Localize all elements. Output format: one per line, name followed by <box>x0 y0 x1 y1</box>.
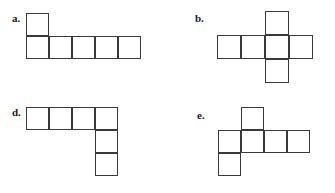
figure-label-e: e. <box>197 110 205 121</box>
net-square <box>218 130 241 153</box>
net-square <box>26 36 49 59</box>
figure-label-d: d. <box>12 107 21 118</box>
net-square <box>265 11 289 35</box>
net-square <box>95 130 118 153</box>
net-square <box>95 107 118 130</box>
net-square <box>289 35 313 59</box>
net-square <box>241 130 264 153</box>
figure-label-b: b. <box>195 13 204 24</box>
net-square <box>95 153 118 176</box>
net-square <box>241 107 264 130</box>
net-square <box>265 59 289 83</box>
net-square <box>217 35 241 59</box>
net-square <box>26 13 49 36</box>
net-square <box>72 107 95 130</box>
figure-label-a: a. <box>12 13 20 24</box>
net-square <box>49 107 72 130</box>
net-square <box>49 36 72 59</box>
net-square <box>118 36 141 59</box>
net-square <box>95 36 118 59</box>
net-square <box>26 107 49 130</box>
net-square <box>218 153 241 176</box>
net-square <box>241 35 265 59</box>
net-square <box>264 130 287 153</box>
worksheet-canvas: a.b.d.e. <box>0 0 335 193</box>
net-square <box>72 36 95 59</box>
net-square <box>287 130 310 153</box>
net-square <box>265 35 289 59</box>
